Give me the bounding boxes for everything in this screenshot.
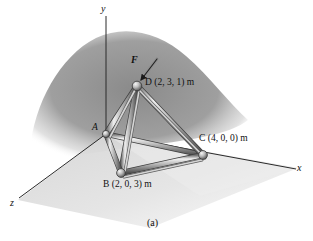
joint-C	[199, 151, 208, 160]
force-label-F: F	[131, 54, 138, 65]
axis-label-y: y	[101, 3, 105, 14]
figure-container: y x z F A B (2, 0, 3) m C (4, 0, 0) m D …	[0, 0, 313, 241]
joint-A	[102, 130, 109, 137]
node-label-C: C (4, 0, 0) m	[199, 133, 248, 143]
node-label-A: A	[92, 122, 98, 132]
figure-caption: (a)	[147, 217, 158, 228]
node-label-D: D (2, 3, 1) m	[145, 77, 194, 87]
node-label-B: B (2, 0, 3) m	[103, 179, 152, 189]
joint-B	[117, 169, 126, 178]
truss-diagram-svg	[0, 0, 313, 241]
axis-label-z: z	[10, 197, 14, 208]
joint-D	[132, 81, 142, 91]
axis-label-x: x	[297, 162, 301, 173]
